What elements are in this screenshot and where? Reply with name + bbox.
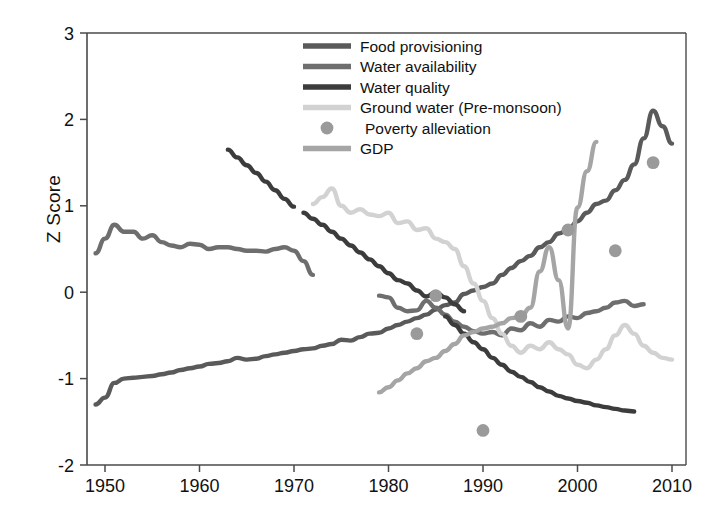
y-tick-label: 3	[64, 24, 74, 44]
legend-label: Ground water (Pre-monsoon)	[360, 99, 562, 116]
series-ground-water-pre-monsoon	[313, 189, 672, 369]
scatter-point	[477, 424, 490, 437]
legend-label: Water quality	[360, 79, 450, 96]
scatter-point	[514, 310, 527, 323]
y-tick-label: 1	[64, 196, 74, 216]
series-line	[96, 225, 313, 275]
legend-item-water-availability: Water availability	[303, 58, 477, 75]
x-tick-label: 1960	[179, 476, 219, 496]
legend-item-gdp: GDP	[303, 140, 394, 157]
chart-figure: Z Score 3210-1-2195019601970198019902000…	[0, 0, 719, 524]
series-layer	[96, 111, 672, 437]
x-tick-label: 2010	[652, 476, 692, 496]
chart-plot-area: 3210-1-21950196019701980199020002010 Foo…	[0, 0, 719, 524]
y-tick-label: 0	[64, 283, 74, 303]
y-tick-label: -1	[58, 369, 74, 389]
x-tick-label: 1970	[274, 476, 314, 496]
legend-item-ground-water-pre-monsoon: Ground water (Pre-monsoon)	[303, 99, 562, 116]
scatter-point	[410, 327, 423, 340]
x-tick-label: 1980	[368, 476, 408, 496]
scatter-point	[647, 156, 660, 169]
legend-label: Water availability	[360, 58, 477, 75]
legend-item-poverty-alleviation: Poverty alleviation	[321, 120, 491, 137]
series-line	[228, 150, 294, 207]
y-tick-label: 2	[64, 110, 74, 130]
scatter-point	[609, 244, 622, 257]
scatter-point	[562, 224, 575, 237]
scatter-point	[429, 289, 442, 302]
legend-dot-marker	[321, 122, 334, 135]
x-tick-label: 2000	[557, 476, 597, 496]
y-tick-label: -2	[58, 456, 74, 476]
x-tick-label: 1950	[85, 476, 125, 496]
x-tick-label: 1990	[463, 476, 503, 496]
legend-label: Poverty alleviation	[365, 120, 491, 137]
series-line	[313, 189, 672, 369]
legend-label: GDP	[360, 140, 394, 157]
legend-label: Food provisioning	[360, 38, 482, 55]
legend-layer: Food provisioningWater availabilityWater…	[303, 38, 562, 158]
legend-item-water-quality: Water quality	[303, 79, 450, 96]
legend-item-food-provisioning: Food provisioning	[303, 38, 482, 55]
